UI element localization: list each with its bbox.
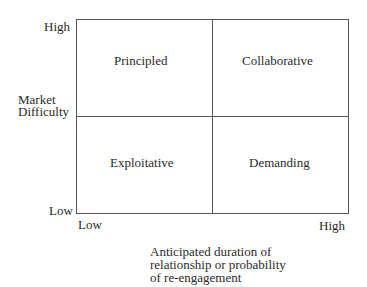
y-axis-high-label: High xyxy=(44,20,70,33)
y-axis-title-line2: Difficulty xyxy=(18,105,69,118)
quadrant-bottom-left-label: Exploitative xyxy=(110,156,174,169)
quadrant-top-right-label: Collaborative xyxy=(242,54,313,67)
quadrant-top-left-label: Principled xyxy=(114,54,167,67)
y-axis-low-label: Low xyxy=(49,204,73,217)
matrix-horizontal-divider xyxy=(76,116,349,117)
quadrant-bottom-right-label: Demanding xyxy=(249,156,310,169)
x-axis-low-label: Low xyxy=(78,218,102,231)
x-axis-title-line3: of re-engagement xyxy=(150,271,241,284)
x-axis-high-label: High xyxy=(319,219,345,232)
